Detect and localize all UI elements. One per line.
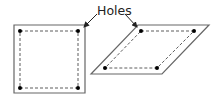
hole-dot <box>103 66 107 70</box>
holes-label: Holes <box>97 3 132 18</box>
hole-dot <box>155 66 159 70</box>
hole-dot <box>76 86 80 90</box>
arrow-to-square-hole <box>84 14 97 27</box>
hole-dot <box>139 29 143 33</box>
hole-dot <box>192 29 196 33</box>
hole-dot <box>76 29 80 33</box>
hole-dot <box>18 29 22 33</box>
square-plate <box>14 25 85 93</box>
hole-dot <box>18 86 22 90</box>
parallelogram-plate <box>91 25 209 74</box>
holes-diagram: Holes <box>0 0 221 103</box>
